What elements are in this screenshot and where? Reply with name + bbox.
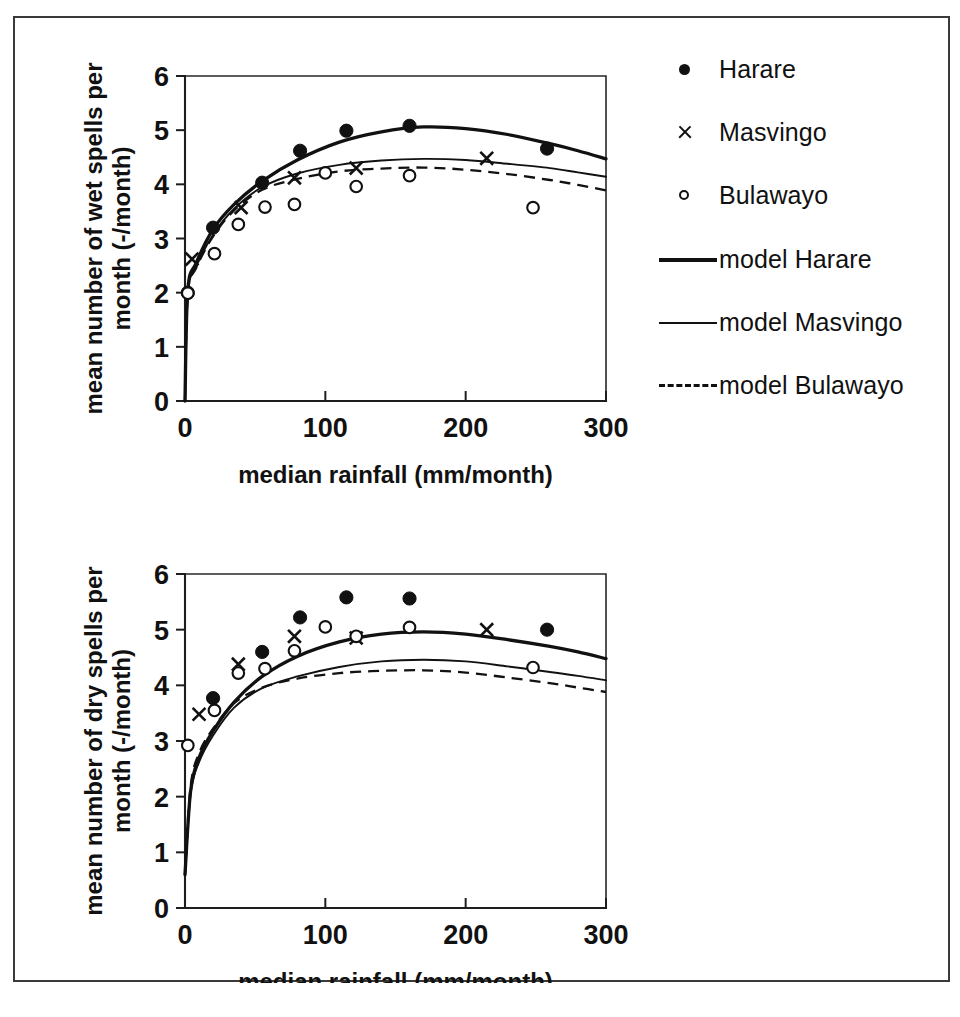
y-axis-title-line1: mean number of dry spells per	[80, 566, 107, 915]
x-tick-label: 300	[583, 920, 628, 950]
wet-spells-plot: 01234560100200300median rainfall (mm/mon…	[15, 28, 655, 498]
data-point	[404, 170, 416, 182]
y-tick-label: 0	[154, 894, 169, 924]
x-tick-label: 100	[303, 413, 348, 443]
data-point	[289, 645, 301, 657]
legend-label-masvingo: Masvingo	[719, 118, 827, 147]
data-point	[350, 181, 362, 193]
x-tick-label: 0	[177, 920, 192, 950]
y-tick-label: 5	[154, 616, 169, 646]
legend-item-model-masvingo: model Masvingo	[657, 305, 902, 339]
y-axis-title: mean number of wet spells permonth (-/mo…	[80, 62, 135, 414]
data-point	[209, 248, 221, 260]
legend-label-harare: Harare	[719, 55, 796, 84]
y-tick-label: 2	[154, 783, 169, 813]
data-point	[340, 591, 353, 604]
y-tick-label: 4	[154, 170, 169, 200]
data-point	[404, 622, 416, 634]
series-points-harare	[181, 119, 553, 299]
data-point	[293, 611, 306, 624]
data-point	[527, 662, 539, 674]
y-axis-title-line2: month (-/month)	[108, 649, 135, 833]
legend-item-model-bulawayo: model Bulawayo	[657, 368, 904, 402]
x-tick-label: 0	[177, 413, 192, 443]
plot-frame	[185, 76, 606, 401]
legend-label-model-bulawayo: model Bulawayo	[719, 371, 904, 400]
solid-thick-line-icon	[657, 242, 719, 276]
data-point	[256, 645, 269, 658]
data-point	[182, 740, 194, 752]
legend-label-model-masvingo: model Masvingo	[719, 308, 902, 337]
x-axis-title: median rainfall (mm/month)	[238, 461, 553, 488]
y-tick-label: 1	[154, 838, 169, 868]
data-point	[206, 692, 219, 705]
y-tick-label: 4	[154, 671, 169, 701]
y-tick-label: 3	[154, 225, 169, 255]
x-tick-label: 200	[443, 920, 488, 950]
y-tick-label: 5	[154, 116, 169, 146]
data-point	[233, 219, 245, 231]
data-point	[289, 199, 301, 211]
y-tick-label: 0	[154, 387, 169, 417]
x-axis-title: median rainfall (mm/month)	[238, 968, 553, 983]
legend-item-harare: Harare	[657, 52, 796, 86]
x-tick-label: 200	[443, 413, 488, 443]
y-axis-title: mean number of dry spells permonth (-/mo…	[80, 566, 135, 915]
data-point	[403, 119, 416, 132]
series-line-model-bulawayo	[185, 670, 606, 874]
series-line-model-harare	[185, 632, 606, 875]
legend-label-model-harare: model Harare	[719, 245, 872, 274]
y-tick-label: 6	[154, 560, 169, 590]
data-point	[259, 201, 271, 213]
data-point	[320, 167, 332, 179]
data-point	[540, 142, 553, 155]
x-tick-label: 100	[303, 920, 348, 950]
legend-item-model-harare: model Harare	[657, 242, 872, 276]
y-axis-title-line2: month (-/month)	[108, 147, 135, 331]
data-point	[527, 202, 539, 214]
cross-icon	[657, 115, 719, 149]
data-point	[320, 621, 332, 633]
series-line-model-masvingo	[185, 159, 606, 401]
solid-thin-line-icon	[657, 305, 719, 339]
data-point	[206, 221, 219, 234]
series-line-model-bulawayo	[185, 168, 606, 401]
data-point	[540, 623, 553, 636]
y-tick-label: 1	[154, 333, 169, 363]
data-point	[350, 631, 362, 643]
chart-panel-dry-spells: 01234560100200300median rainfall (mm/mon…	[15, 523, 952, 983]
data-point	[209, 705, 221, 717]
data-point	[340, 124, 353, 137]
data-point	[233, 667, 245, 679]
series-line-model-masvingo	[185, 660, 606, 875]
y-tick-label: 6	[154, 62, 169, 92]
series-points-bulawayo	[182, 621, 539, 751]
data-point	[288, 630, 301, 643]
x-tick-label: 300	[583, 413, 628, 443]
series-points-bulawayo	[182, 167, 539, 299]
legend-item-bulawayo: Bulawayo	[657, 178, 828, 212]
legend-item-masvingo: Masvingo	[657, 115, 827, 149]
data-point	[182, 287, 194, 299]
data-point	[480, 623, 493, 636]
y-tick-label: 2	[154, 279, 169, 309]
figure-border: 01234560100200300median rainfall (mm/mon…	[13, 16, 950, 982]
filled-circle-icon	[657, 52, 719, 86]
data-point	[480, 152, 493, 165]
dashed-line-icon	[657, 368, 719, 402]
data-point	[256, 176, 269, 189]
open-circle-icon	[657, 178, 719, 212]
data-point	[403, 592, 416, 605]
series-points-harare	[206, 591, 553, 705]
y-tick-label: 3	[154, 727, 169, 757]
data-point	[193, 708, 206, 721]
dry-spells-plot: 01234560100200300median rainfall (mm/mon…	[15, 523, 655, 983]
legend-label-bulawayo: Bulawayo	[719, 181, 828, 210]
y-axis-title-line1: mean number of wet spells per	[80, 62, 107, 414]
data-point	[293, 144, 306, 157]
data-point	[259, 663, 271, 675]
